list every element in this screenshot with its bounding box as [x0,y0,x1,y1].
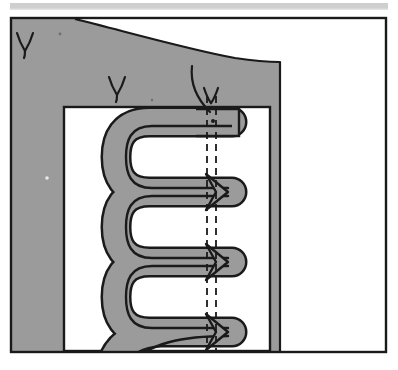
figure-page: Serpentine meander structure diagram γ γ… [0,0,398,370]
figure-canvas [0,0,398,370]
scan-speckle-2 [45,176,49,180]
scan-speckle-4 [151,99,153,101]
meander-band-top-terminus [196,109,239,136]
scanned-page-header-strip-shadow [10,9,388,11]
scanned-page-header-strip [10,3,388,9]
inner-window-rectangle [64,107,270,351]
scan-speckle-3 [211,119,215,123]
scan-speckle-1 [59,33,62,36]
